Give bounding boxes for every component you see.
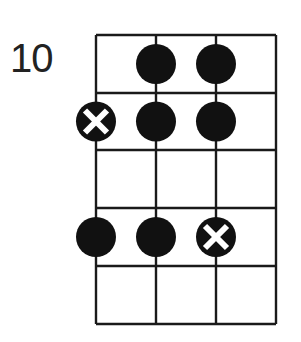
- finger-dot: [136, 217, 176, 257]
- finger-dot: [196, 44, 236, 84]
- finger-dot: [136, 102, 176, 142]
- fretboard-diagram: [0, 0, 301, 342]
- finger-dot: [136, 44, 176, 84]
- finger-dot: [76, 217, 116, 257]
- finger-dot: [196, 102, 236, 142]
